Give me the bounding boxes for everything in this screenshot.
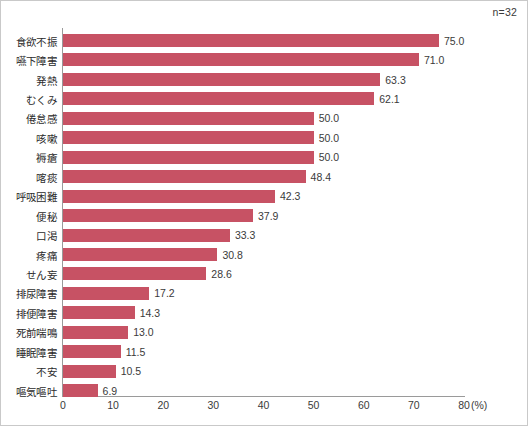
bar-row: 倦怠感50.0 <box>63 108 464 129</box>
bar-value-label: 50.0 <box>319 151 339 163</box>
category-label: 排便障害 <box>16 305 57 320</box>
category-label: 食欲不振 <box>16 33 57 48</box>
bar-value-label: 14.3 <box>140 307 160 319</box>
bar-value-label: 11.5 <box>126 346 146 358</box>
category-label: 呼吸困難 <box>16 189 57 204</box>
x-tick-label: 60 <box>358 399 370 411</box>
category-label: 死前喘鳴 <box>16 325 57 340</box>
x-tick-label: 70 <box>408 399 420 411</box>
category-label: せん妄 <box>26 267 57 282</box>
bar <box>63 345 121 358</box>
x-tick-label: 10 <box>107 399 119 411</box>
bar-row: せん妄28.6 <box>63 263 464 284</box>
bar-row: 口渇33.3 <box>63 225 464 246</box>
x-axis-tick-labels: 01020304050607080 <box>63 399 464 415</box>
bar-row: 発熱63.3 <box>63 69 464 90</box>
category-label: 便秘 <box>36 208 57 223</box>
bar-value-label: 6.9 <box>103 385 118 397</box>
plot-area: 食欲不振75.0嚥下障害71.0発熱63.3むくみ62.1倦怠感50.0咳嗽50… <box>63 28 464 397</box>
bar-row: 呼吸困難42.3 <box>63 186 464 207</box>
category-label: 睡眠障害 <box>16 344 57 359</box>
bar-value-label: 50.0 <box>319 112 339 124</box>
bar <box>63 112 314 125</box>
bar <box>63 170 306 183</box>
x-tick-label: 40 <box>258 399 270 411</box>
bar-value-label: 37.9 <box>258 210 278 222</box>
category-label: 咳嗽 <box>36 130 57 145</box>
bar <box>63 53 419 66</box>
bar <box>63 209 253 222</box>
category-label: 倦怠感 <box>26 111 57 126</box>
category-label: 褥瘡 <box>36 150 57 165</box>
bar <box>63 384 98 397</box>
bar-row: 食欲不振75.0 <box>63 30 464 51</box>
bar <box>63 229 230 242</box>
category-label: むくみ <box>26 91 57 106</box>
bar <box>63 248 217 261</box>
bar <box>63 73 380 86</box>
category-label: 口渇 <box>36 228 57 243</box>
bar <box>63 267 206 280</box>
x-axis-unit-label: (%) <box>471 399 487 411</box>
bar-value-label: 13.0 <box>133 326 153 338</box>
bar-row: 咳嗽50.0 <box>63 127 464 148</box>
bar-row: 排便障害14.3 <box>63 302 464 323</box>
bar-row: 不安10.5 <box>63 361 464 382</box>
bar <box>63 92 374 105</box>
bar <box>63 287 149 300</box>
x-tick-label: 0 <box>60 399 66 411</box>
bar <box>63 365 116 378</box>
bar-value-label: 42.3 <box>280 190 300 202</box>
sample-size-annotation: n=32 <box>493 6 517 18</box>
bar-value-label: 63.3 <box>385 74 405 86</box>
chart-container: n=32 食欲不振75.0嚥下障害71.0発熱63.3むくみ62.1倦怠感50.… <box>0 0 528 426</box>
bar-row: 睡眠障害11.5 <box>63 341 464 362</box>
bar <box>63 34 439 47</box>
category-label: 疼痛 <box>36 247 57 262</box>
bar-row: 排尿障害17.2 <box>63 283 464 304</box>
bar-value-label: 48.4 <box>311 171 331 183</box>
bar-row: むくみ62.1 <box>63 88 464 109</box>
bar-row: 便秘37.9 <box>63 205 464 226</box>
bar-value-label: 17.2 <box>154 287 174 299</box>
bar <box>63 131 314 144</box>
x-tick-label: 50 <box>308 399 320 411</box>
bar <box>63 190 275 203</box>
category-label: 不安 <box>36 364 57 379</box>
x-tick-label: 80 <box>458 399 470 411</box>
bar-row: 嚥下障害71.0 <box>63 49 464 70</box>
bar <box>63 151 314 164</box>
bar-row: 死前喘鳴13.0 <box>63 322 464 343</box>
bar-row: 疼痛30.8 <box>63 244 464 265</box>
x-tick-label: 20 <box>157 399 169 411</box>
bar-value-label: 30.8 <box>222 249 242 261</box>
x-tick-label: 30 <box>208 399 220 411</box>
category-label: 排尿障害 <box>16 286 57 301</box>
category-label: 発熱 <box>36 72 57 87</box>
bar-value-label: 71.0 <box>424 54 444 66</box>
bar-value-label: 33.3 <box>235 229 255 241</box>
category-label: 嘔気嘔吐 <box>16 383 57 398</box>
bar-value-label: 50.0 <box>319 132 339 144</box>
bar <box>63 306 135 319</box>
bar <box>63 326 128 339</box>
bar-value-label: 62.1 <box>379 93 399 105</box>
bar-row: 褥瘡50.0 <box>63 147 464 168</box>
category-label: 喀痰 <box>36 169 57 184</box>
bar-value-label: 10.5 <box>121 365 141 377</box>
bar-value-label: 75.0 <box>444 35 464 47</box>
category-label: 嚥下障害 <box>16 53 57 68</box>
bar-value-label: 28.6 <box>211 268 231 280</box>
bar-row: 喀痰48.4 <box>63 166 464 187</box>
